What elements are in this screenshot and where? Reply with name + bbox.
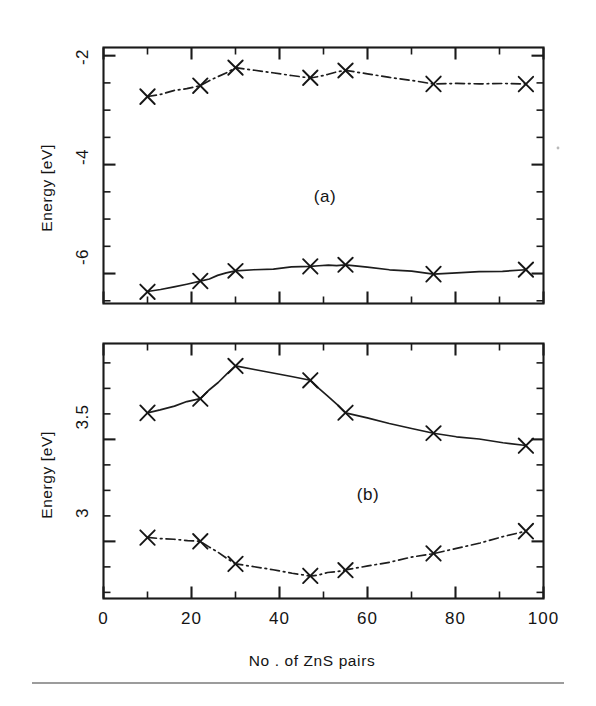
x-axis-tick-label: 40 (269, 609, 290, 628)
x-axis-tick-label: 100 (528, 609, 559, 628)
panel-a-y-axis-title: Energy [eV] (38, 144, 55, 232)
x-axis-title: No . of ZnS pairs (249, 652, 376, 669)
panel-b-x-ticks (104, 344, 544, 599)
panel-a-upper-markers (140, 60, 533, 103)
x-axis-tick-label: 60 (357, 609, 378, 628)
panel-b-y-axis-title: Energy [eV] (38, 431, 55, 519)
panel-b-upper-curve (148, 366, 526, 446)
panel-b-tag: (b) (357, 485, 379, 504)
panel-b-y-ticks (104, 363, 544, 593)
zns-energy-figure: -2 -4 -6 Energy [eV] (a) 3.5 3 Energy [e… (0, 0, 596, 706)
panel-a-ytick-label-2: -6 (73, 249, 92, 265)
panel-b-lower-markers (140, 524, 533, 583)
panel-b-ytick-label-0: 3.5 (73, 404, 92, 429)
panel-b: 3.5 3 Energy [eV] (b) (38, 344, 543, 599)
panel-a-ytick-label-1: -4 (73, 149, 92, 165)
x-axis-tick-label: 80 (445, 609, 466, 628)
panel-a-lower-markers (140, 258, 533, 299)
x-axis-tick-label: 0 (98, 609, 108, 628)
panel-a: -2 -4 -6 Energy [eV] (a) (38, 48, 543, 304)
panel-b-frame (104, 344, 544, 599)
panel-a-ytick-label-0: -2 (73, 49, 92, 65)
panel-a-tag: (a) (314, 187, 336, 206)
x-axis-tick-label: 20 (181, 609, 202, 628)
figure-container: -2 -4 -6 Energy [eV] (a) 3.5 3 Energy [e… (0, 0, 596, 706)
panel-b-ytick-label-1: 3 (73, 508, 92, 518)
x-axis-tick-labels: 020406080100 (98, 609, 559, 628)
scan-speck (557, 147, 560, 150)
